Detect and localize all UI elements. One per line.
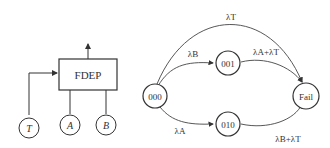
rate-from-010-label: λB+λT	[275, 134, 301, 144]
state-010-label: 010	[221, 120, 235, 130]
state-000-label: 000	[148, 92, 162, 102]
rate-to-001-label: λB	[188, 49, 198, 59]
rate-from-001-label: λA+λT	[253, 47, 279, 57]
state-fail-label: Fail	[299, 92, 314, 102]
transition-from-010	[241, 104, 302, 126]
trigger-arrow	[29, 73, 57, 115]
markov-chain: 000 001 010 Fail λT λB λA+λT λA λB+λT	[143, 12, 319, 144]
dependent-event-b-label: B	[103, 120, 109, 131]
fdep-gate-label: FDEP	[75, 69, 102, 81]
rate-to-010-label: λA	[175, 126, 186, 136]
fault-tree: FDEP T A B	[19, 44, 117, 138]
diagram-canvas: FDEP T A B 000 001 010 Fail λT λB λA+λT …	[0, 0, 330, 148]
transition-to-010	[160, 107, 213, 124]
dependent-event-a-label: A	[66, 120, 74, 131]
state-001-label: 001	[221, 59, 235, 69]
rate-top-label: λT	[226, 12, 236, 22]
